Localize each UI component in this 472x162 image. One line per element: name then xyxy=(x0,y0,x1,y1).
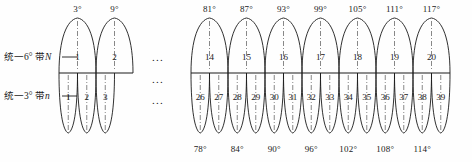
six-degree-zone-14: 14 xyxy=(205,53,214,62)
three-degree-zone-1: 1 xyxy=(66,93,71,102)
three-degree-zone-26: 26 xyxy=(196,93,205,102)
bottom-meridian-90: 90° xyxy=(268,145,281,154)
three-degree-zone-35: 35 xyxy=(362,93,371,102)
three-degree-zone-36: 36 xyxy=(381,93,390,102)
six-degree-row-symbol: N xyxy=(45,52,51,62)
three-degree-zone-30: 30 xyxy=(270,93,279,102)
six-degree-meridian-2: 9° xyxy=(110,5,119,14)
six-degree-zone-19: 19 xyxy=(390,53,399,62)
six-degree-meridian-15: 87° xyxy=(240,5,253,14)
three-degree-zone-2: 2 xyxy=(85,93,90,102)
six-degree-meridian-1: 3° xyxy=(73,5,82,14)
three-degree-zone-29: 29 xyxy=(251,93,260,102)
ellipsis-lower: ... xyxy=(152,95,164,106)
bottom-meridian-102: 102° xyxy=(339,145,357,154)
six-degree-zone-17: 17 xyxy=(316,53,325,62)
six-degree-zone-16: 16 xyxy=(279,53,288,62)
three-degree-zone-28: 28 xyxy=(233,93,242,102)
three-degree-zone-27: 27 xyxy=(214,93,223,102)
ellipsis-upper: ... xyxy=(152,52,164,63)
six-degree-zone-2: 2 xyxy=(112,53,117,62)
six-degree-row-text: 统一6° 带 xyxy=(4,52,45,62)
bottom-meridian-108: 108° xyxy=(376,145,394,154)
bottom-meridian-114: 114° xyxy=(413,145,431,154)
three-degree-zone-3: 3 xyxy=(103,93,108,102)
six-degree-meridian-14: 81° xyxy=(203,5,216,14)
figure-canvas xyxy=(0,0,472,162)
six-degree-zone-15: 15 xyxy=(242,53,251,62)
three-degree-zone-33: 33 xyxy=(325,93,334,102)
six-degree-meridian-16: 93° xyxy=(277,5,290,14)
six-degree-meridian-19: 111° xyxy=(386,5,403,14)
six-degree-zone-18: 18 xyxy=(353,53,362,62)
three-degree-zone-32: 32 xyxy=(307,93,316,102)
three-degree-zone-37: 37 xyxy=(399,93,408,102)
three-degree-row-label: 统一3° 带n xyxy=(4,92,50,102)
six-degree-row-label: 统一6° 带N xyxy=(4,53,51,63)
three-degree-row-symbol: n xyxy=(45,91,50,101)
three-degree-row-text: 统一3° 带 xyxy=(4,91,45,101)
bottom-meridian-96: 96° xyxy=(305,145,318,154)
bottom-meridian-78: 78° xyxy=(194,145,207,154)
six-degree-zone-1: 1 xyxy=(75,53,80,62)
six-degree-zone-20: 20 xyxy=(427,53,436,62)
six-degree-meridian-18: 105° xyxy=(349,5,367,14)
three-degree-zone-31: 31 xyxy=(288,93,297,102)
bottom-meridian-84: 84° xyxy=(231,145,244,154)
three-degree-zone-34: 34 xyxy=(344,93,353,102)
zone-division-figure: 统一6° 带N 统一3° 带n ... ... ... 3°19°281°148… xyxy=(0,0,472,162)
six-degree-meridian-17: 99° xyxy=(314,5,327,14)
ellipsis-middle: ... xyxy=(152,74,164,85)
three-degree-zone-39: 39 xyxy=(436,93,445,102)
three-degree-zone-38: 38 xyxy=(418,93,427,102)
six-degree-meridian-20: 117° xyxy=(423,5,441,14)
